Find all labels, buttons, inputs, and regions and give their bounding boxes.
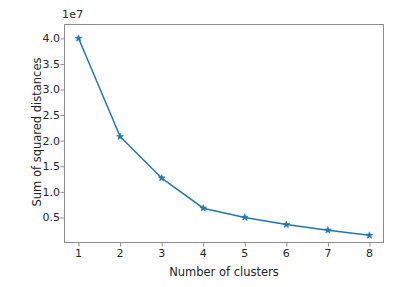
data-point-markers <box>75 35 373 239</box>
x-tick-label: 1 <box>67 247 91 260</box>
tick-marks <box>61 39 370 247</box>
data-point-marker <box>283 221 290 228</box>
data-point-marker <box>241 214 248 221</box>
x-tick-label: 2 <box>108 247 132 260</box>
y-axis-title: Sum of squared distances <box>30 32 44 232</box>
data-point-marker <box>324 227 331 234</box>
x-tick-label: 8 <box>357 247 381 260</box>
data-point-marker <box>75 35 82 42</box>
x-tick-label: 4 <box>191 247 215 260</box>
x-tick-label: 5 <box>233 247 257 260</box>
x-tick-label: 3 <box>150 247 174 260</box>
x-tick-label: 6 <box>274 247 298 260</box>
elbow-plot-figure: 1e7 0.51.01.52.02.53.03.54.0 12345678 Nu… <box>0 0 398 287</box>
x-axis-title: Number of clusters <box>64 265 384 279</box>
x-tick-label-layer: 12345678 <box>0 247 398 265</box>
data-point-marker <box>366 232 373 239</box>
plot-frame <box>65 25 384 243</box>
x-tick-label: 7 <box>316 247 340 260</box>
